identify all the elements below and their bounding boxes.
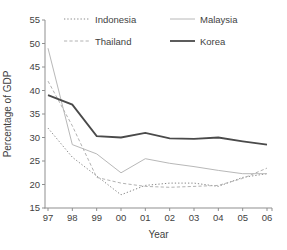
x-tick-label-04: 04 xyxy=(213,212,224,223)
y-tick-label-50: 50 xyxy=(29,38,40,49)
y-axis-title: Percentage of GDP xyxy=(2,70,13,157)
y-tick-label-20: 20 xyxy=(29,179,40,190)
y-tick-label-30: 30 xyxy=(29,132,40,143)
y-tick-label-35: 35 xyxy=(29,108,40,119)
x-axis-title: Year xyxy=(148,229,169,240)
chart-svg: 15202530354045505597989900010203040506Ye… xyxy=(0,0,287,250)
legend-label-korea: Korea xyxy=(200,36,226,47)
y-tick-label-45: 45 xyxy=(29,61,40,72)
x-tick-label-03: 03 xyxy=(189,212,200,223)
legend-label-malaysia: Malaysia xyxy=(200,14,238,25)
line-chart: 15202530354045505597989900010203040506Ye… xyxy=(0,0,287,250)
x-tick-label-00: 00 xyxy=(116,212,127,223)
x-tick-label-01: 01 xyxy=(140,212,151,223)
x-tick-label-05: 05 xyxy=(237,212,248,223)
y-tick-label-15: 15 xyxy=(29,202,40,213)
series-korea-line xyxy=(48,95,267,144)
series-malaysia-line xyxy=(48,48,267,174)
y-tick-label-25: 25 xyxy=(29,155,40,166)
series-thailand-line xyxy=(48,81,267,187)
y-tick-label-40: 40 xyxy=(29,85,40,96)
x-tick-label-06: 06 xyxy=(262,212,273,223)
x-tick-label-98: 98 xyxy=(67,212,78,223)
y-tick-label-55: 55 xyxy=(29,14,40,25)
legend-label-thailand: Thailand xyxy=(95,36,131,47)
x-tick-label-97: 97 xyxy=(43,212,54,223)
legend-label-indonesia: Indonesia xyxy=(95,14,137,25)
x-tick-label-02: 02 xyxy=(164,212,175,223)
x-tick-label-99: 99 xyxy=(91,212,102,223)
